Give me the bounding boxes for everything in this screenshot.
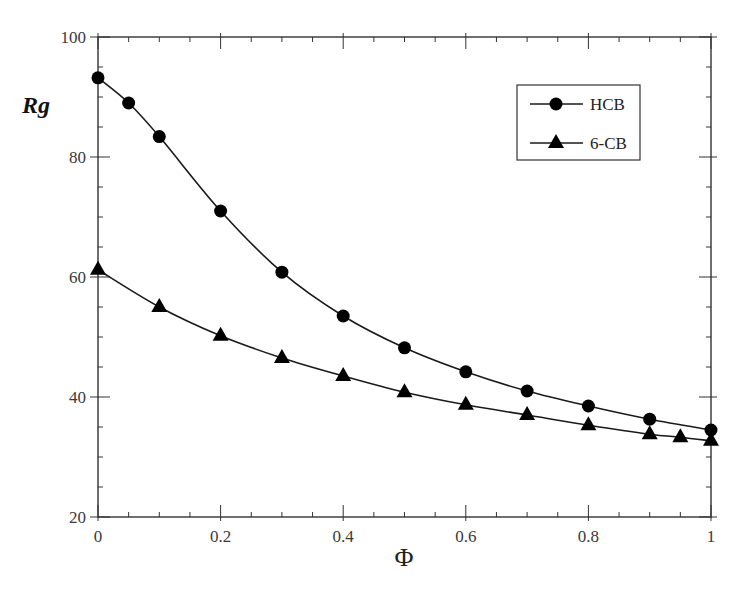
chart: 00.20.40.60.8120406080100 Rg Φ HCB 6-CB xyxy=(0,0,746,594)
circle-marker-icon xyxy=(337,310,350,323)
x-tick-label: 0.2 xyxy=(210,527,231,546)
circle-marker-icon xyxy=(550,98,563,111)
triangle-marker-icon xyxy=(458,396,474,410)
x-axis-title: Φ xyxy=(394,543,413,572)
triangle-marker-icon xyxy=(519,406,535,420)
circle-marker-icon xyxy=(521,385,534,398)
legend-label-hcb: HCB xyxy=(590,95,625,114)
triangle-marker-icon xyxy=(703,432,719,446)
y-tick-label: 80 xyxy=(69,148,86,167)
circle-marker-icon xyxy=(643,413,656,426)
x-tick-label: 0.8 xyxy=(578,527,599,546)
y-tick-label: 40 xyxy=(69,388,86,407)
x-tick-label: 0.4 xyxy=(333,527,355,546)
y-tick-label: 60 xyxy=(69,268,86,287)
triangle-marker-icon xyxy=(672,428,688,442)
triangle-marker-icon xyxy=(151,298,167,312)
x-tick-label: 1 xyxy=(707,527,716,546)
circle-marker-icon xyxy=(398,341,411,354)
circle-marker-icon xyxy=(459,365,472,378)
circle-marker-icon xyxy=(92,71,105,84)
x-tick-label: 0 xyxy=(94,527,103,546)
circle-marker-icon xyxy=(153,130,166,143)
legend: HCB 6-CB xyxy=(517,85,640,160)
triangle-marker-icon xyxy=(642,425,658,439)
circle-marker-icon xyxy=(275,266,288,279)
legend-label-6cb: 6-CB xyxy=(590,134,627,153)
circle-marker-icon xyxy=(582,400,595,413)
series-line xyxy=(98,270,711,441)
y-axis-title: Rg xyxy=(21,92,50,118)
y-tick-label: 20 xyxy=(69,508,86,527)
circle-marker-icon xyxy=(214,205,227,218)
circle-marker-icon xyxy=(122,97,135,110)
triangle-marker-icon xyxy=(580,416,596,430)
triangle-marker-icon xyxy=(90,261,106,275)
x-tick-label: 0.6 xyxy=(455,527,476,546)
y-tick-label: 100 xyxy=(61,28,87,47)
